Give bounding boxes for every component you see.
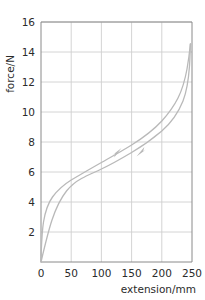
y-tick-labels: 16 14 12 10 8 6 4 2 — [22, 16, 36, 238]
ytick-label-8: 8 — [28, 136, 35, 148]
ytick-label-12: 12 — [22, 76, 35, 88]
ytick-label-10: 10 — [22, 106, 35, 118]
xtick-label-200: 200 — [152, 267, 172, 279]
horizontal-gridlines — [41, 22, 192, 232]
hysteresis-chart-figure: 16 14 12 10 8 6 4 2 0 50 100 150 200 250… — [0, 0, 205, 300]
ytick-label-2: 2 — [28, 226, 35, 238]
ytick-label-6: 6 — [28, 166, 35, 178]
ytick-label-4: 4 — [28, 196, 35, 208]
xtick-label-100: 100 — [91, 267, 111, 279]
direction-arrows — [113, 147, 147, 158]
force-extension-chart: 16 14 12 10 8 6 4 2 0 50 100 150 200 250… — [0, 0, 205, 300]
y-axis-title: force/N — [4, 55, 16, 93]
x-axis-title: extension/mm — [121, 283, 196, 295]
xtick-label-0: 0 — [38, 267, 45, 279]
xtick-label-250: 250 — [182, 267, 202, 279]
ytick-label-14: 14 — [22, 46, 36, 58]
xtick-label-50: 50 — [65, 267, 78, 279]
xtick-label-150: 150 — [122, 267, 142, 279]
ytick-label-16: 16 — [22, 16, 36, 28]
x-tick-labels: 0 50 100 150 200 250 — [38, 267, 202, 279]
